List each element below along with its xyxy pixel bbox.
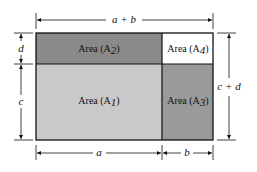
svg-text:a: a (96, 146, 102, 158)
svg-text:a + b: a + b (112, 13, 136, 25)
area-diagram: Area (A2) Area (A4) Area (A1) Area (A3) … (0, 0, 257, 172)
svg-text:c: c (19, 95, 24, 107)
svg-text:c + d: c + d (217, 80, 241, 92)
dimension-left: d c (14, 33, 33, 140)
dimension-top: a + b (36, 13, 213, 29)
dimension-bottom: a b (36, 145, 213, 160)
svg-text:d: d (18, 42, 24, 54)
svg-text:b: b (184, 146, 190, 158)
dimension-right: c + d (217, 33, 241, 140)
